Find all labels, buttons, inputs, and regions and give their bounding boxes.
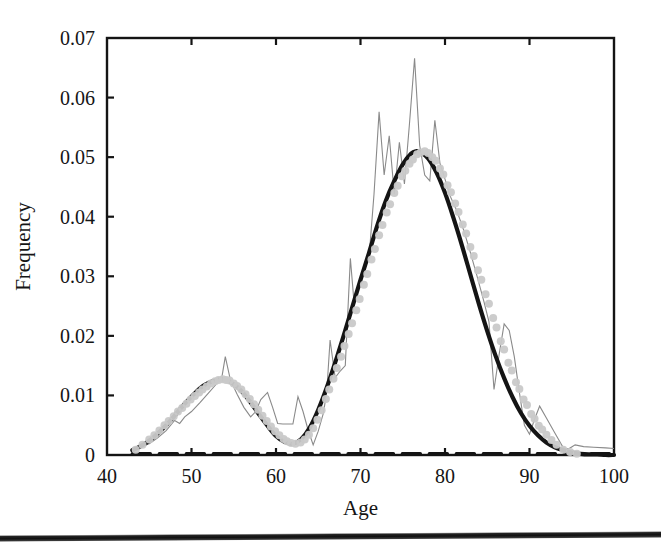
data-point	[375, 231, 383, 239]
data-point	[474, 266, 482, 274]
x-axis-tick-label: 100	[599, 465, 629, 487]
data-point	[371, 245, 379, 253]
data-point	[531, 415, 539, 423]
data-point	[383, 209, 391, 217]
data-point	[566, 448, 574, 456]
data-point	[309, 424, 317, 432]
data-point	[360, 281, 368, 289]
data-point	[333, 364, 341, 372]
data-point	[493, 324, 501, 332]
y-axis-tick-label: 0.04	[60, 206, 95, 228]
data-point	[523, 401, 531, 409]
line-series-empirical-frequency-polygon	[132, 58, 614, 452]
data-point	[390, 189, 398, 197]
data-point	[508, 366, 516, 374]
data-point	[462, 229, 470, 237]
y-axis-title-group: Frequency	[11, 202, 35, 291]
data-point	[485, 300, 493, 308]
y-axis-tick-label: 0.02	[60, 325, 95, 347]
data-point	[132, 446, 140, 454]
x-axis-tick-label: 40	[97, 465, 117, 487]
data-point	[394, 182, 402, 190]
data-point	[432, 157, 440, 165]
y-axis-tick-label: 0	[85, 444, 95, 466]
data-point	[401, 167, 409, 175]
data-point	[466, 243, 474, 251]
x-axis-title: Age	[343, 496, 378, 520]
data-point	[348, 319, 356, 327]
data-point	[363, 270, 371, 278]
data-point	[322, 395, 330, 403]
data-point	[305, 431, 313, 439]
y-axis-tick-label: 0.03	[60, 265, 95, 287]
figure-container: 00.010.020.030.040.050.060.0740506070809…	[0, 0, 661, 552]
data-point	[138, 441, 146, 449]
data-point	[489, 314, 497, 322]
data-point	[444, 181, 452, 189]
data-point	[504, 359, 512, 367]
data-point	[482, 290, 490, 298]
data-point	[318, 406, 326, 414]
data-point	[325, 385, 333, 393]
y-axis-tick-label: 0.05	[60, 146, 95, 168]
age-frequency-chart: 00.010.020.030.040.050.060.0740506070809…	[0, 0, 661, 552]
y-axis-title: Frequency	[11, 202, 35, 291]
x-axis-tick-label: 70	[351, 465, 371, 487]
data-point	[367, 256, 375, 264]
data-point	[337, 353, 345, 361]
y-axis-tick-label: 0.06	[60, 87, 95, 109]
data-point	[345, 330, 353, 338]
data-point	[477, 276, 485, 284]
data-point	[329, 375, 337, 383]
data-point	[553, 441, 561, 449]
y-axis-tick-label: 0.01	[60, 384, 95, 406]
data-point	[500, 346, 508, 354]
y-axis-tick-label: 0.07	[60, 27, 95, 49]
data-point	[386, 200, 394, 208]
plot-frame	[107, 38, 614, 455]
data-point	[470, 252, 478, 260]
data-point	[352, 306, 360, 314]
data-point	[515, 385, 523, 393]
scatter-series-observation-scatter-points	[132, 147, 581, 458]
data-point	[439, 170, 447, 178]
data-point	[459, 220, 467, 228]
data-point	[340, 342, 348, 350]
data-point	[573, 450, 581, 458]
data-point	[378, 221, 386, 229]
data-point	[497, 337, 505, 345]
data-point	[313, 416, 321, 424]
x-axis-tick-label: 80	[435, 465, 455, 487]
data-point	[455, 208, 463, 216]
data-point	[447, 188, 455, 196]
x-axis-tick-label: 50	[182, 465, 202, 487]
x-axis-tick-label: 60	[266, 465, 286, 487]
data-point	[451, 200, 459, 208]
data-point	[356, 295, 364, 303]
x-axis-tick-label: 90	[520, 465, 540, 487]
